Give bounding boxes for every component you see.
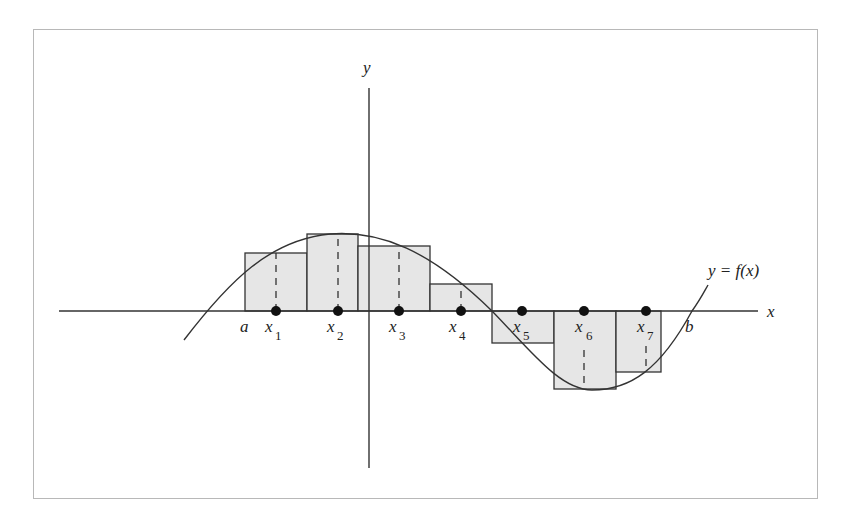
label-x5: x <box>512 317 521 336</box>
label-x1-sub: 1 <box>275 328 282 343</box>
label-x4: x <box>448 317 457 336</box>
rect-6 <box>554 311 616 389</box>
label-b: b <box>685 317 694 336</box>
label-x1: x <box>264 317 273 336</box>
y-axis-label: y <box>361 58 371 77</box>
label-x7-sub: 7 <box>647 328 654 343</box>
label-x6-sub: 6 <box>586 328 593 343</box>
label-a: a <box>240 317 249 336</box>
label-x2-sub: 2 <box>337 328 344 343</box>
x-axis-label: x <box>766 302 775 321</box>
label-x6: x <box>574 317 583 336</box>
label-x3-sub: 3 <box>399 328 406 343</box>
label-x7: x <box>636 317 645 336</box>
rect-2 <box>307 234 358 311</box>
label-x3: x <box>388 317 397 336</box>
riemann-diagram: y x y = f(x) a b x 1 x 2 x 3 x 4 x 5 x 6… <box>0 0 852 523</box>
label-x2: x <box>326 317 335 336</box>
label-x5-sub: 5 <box>523 328 530 343</box>
label-x4-sub: 4 <box>459 328 466 343</box>
curve-label: y = f(x) <box>706 261 759 280</box>
